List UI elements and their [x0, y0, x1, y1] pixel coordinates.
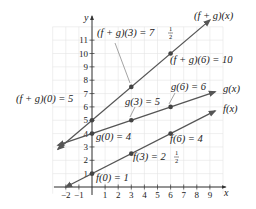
x-tick-label: −2 [61, 190, 71, 200]
y-tick-label: 6 [84, 102, 89, 112]
y-axis-label: y [83, 12, 89, 23]
y-tick-label: 9 [84, 62, 89, 72]
label-f-x: f(x) [223, 103, 238, 115]
label-fg-3-main: (f + g)(3) = 7 [97, 27, 155, 39]
annotations: (f + g)(x) (f + g)(3) = 7 1 2 (f + g)(6)… [16, 10, 240, 198]
data-point [168, 105, 173, 110]
leader-g3 [130, 107, 135, 117]
y-tick-label: 3 [84, 142, 89, 152]
function-sum-graph: −2−11234567891234567891011 (f + g)(x) (f… [0, 0, 256, 209]
data-point [129, 85, 134, 90]
data-point [90, 118, 95, 123]
label-fg-6: (f + g)(6) = 10 [170, 54, 233, 66]
label-f-3-frac-num: 1 [175, 149, 178, 156]
label-g-3: g(3) = 5 [125, 96, 160, 108]
label-fg-3-frac-den: 2 [169, 33, 172, 40]
leader-fg3 [115, 43, 130, 83]
label-fg-x: (f + g)(x) [194, 10, 234, 22]
leader-g6 [169, 93, 175, 104]
x-tick-label: −1 [74, 190, 84, 200]
label-fg-3: (f + g)(3) = 7 [97, 27, 155, 39]
label-g-6: g(6) = 6 [171, 81, 207, 93]
x-tick-label: 2 [116, 190, 121, 200]
y-tick-label: 10 [79, 49, 89, 59]
x-tick-label: 5 [155, 190, 160, 200]
label-f-6: f(6) = 4 [170, 133, 203, 145]
data-point [90, 171, 95, 176]
x-tick-label: 4 [142, 190, 147, 200]
x-tick-label: 8 [195, 190, 200, 200]
label-g-0: g(0) = 4 [96, 131, 132, 143]
x-tick-label: 3 [129, 190, 134, 200]
x-axis-label: x [223, 187, 229, 198]
y-tick-label: 11 [79, 35, 88, 45]
data-point [129, 118, 134, 123]
x-tick-label: 9 [208, 190, 213, 200]
label-fg-3-frac-num: 1 [169, 25, 172, 32]
y-tick-label: 4 [84, 129, 89, 139]
label-f-3-frac-den: 2 [175, 157, 178, 164]
y-tick-label: 7 [84, 89, 89, 99]
x-tick-label: 6 [168, 190, 173, 200]
x-tick-label: 1 [103, 190, 108, 200]
label-g-x: g(x) [223, 83, 240, 95]
x-tick-label: 7 [181, 190, 186, 200]
data-point [90, 131, 95, 136]
y-tick-label: 2 [84, 155, 89, 165]
label-f-3: f(3) = 2 [133, 151, 166, 163]
label-fg-0: (f + g)(0) = 5 [16, 93, 73, 105]
label-f-0: f(0) = 1 [96, 172, 129, 184]
y-tick-label: 8 [84, 75, 89, 85]
line-fx [66, 111, 215, 187]
